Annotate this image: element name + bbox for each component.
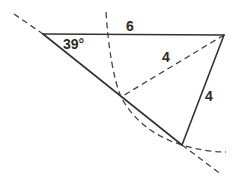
ray-extension-right (182, 145, 222, 175)
angle-label: 39° (63, 36, 84, 52)
side-a-c (43, 34, 224, 35)
triangle-diagram: 39° 6 4 4 (0, 0, 235, 183)
dashed-side-label: 4 (162, 49, 170, 65)
compass-arc (106, 12, 226, 152)
side-c-b2 (182, 35, 224, 145)
ray-extension-left (14, 14, 43, 34)
top-side-label: 6 (126, 18, 134, 34)
right-side-label: 4 (205, 88, 213, 104)
